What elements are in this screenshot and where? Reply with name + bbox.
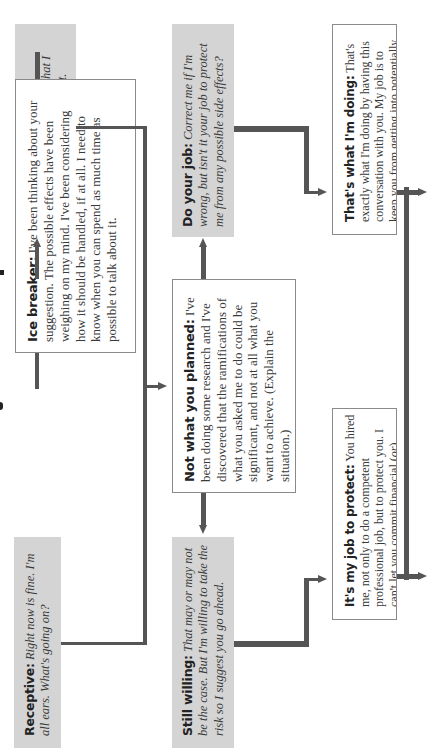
connector-stillwilling-out bbox=[234, 641, 308, 647]
arrow-right-icon bbox=[318, 575, 327, 583]
connector-nwyp-to-stillwilling bbox=[201, 493, 206, 527]
node-text: I've been doing some research and I've d… bbox=[182, 297, 292, 482]
arrow-right-icon bbox=[158, 382, 167, 390]
node-label: That's what I'm doing: bbox=[343, 76, 357, 223]
node-thats-what-im-doing: That's what I'm doing: That's exactly wh… bbox=[332, 24, 397, 235]
node-not-what-you-planned: Not what you planned: I've been doing so… bbox=[172, 279, 296, 493]
connector-right-top bbox=[397, 190, 419, 195]
connector-stillwilling-vertical bbox=[304, 578, 309, 647]
node-label: It's my job to protect: bbox=[343, 464, 357, 607]
node-do-your-job: Do your job: Correct me if I'm wrong, bu… bbox=[172, 24, 234, 237]
title-fragment-mark bbox=[0, 270, 4, 275]
connector-right-vertical bbox=[404, 187, 409, 580]
node-label: Not what you planned: bbox=[182, 319, 197, 482]
node-label: Receptive: bbox=[22, 663, 37, 736]
connector-nwyp-to-doyourjob bbox=[201, 245, 206, 279]
arrow-right-icon bbox=[418, 572, 427, 580]
node-ice-breaker: Ice breaker: I've been thinking about yo… bbox=[15, 79, 136, 353]
node-label: Still willing: bbox=[180, 655, 195, 736]
arrow-up-icon bbox=[33, 238, 41, 247]
node-receptive: Receptive: Right now is fine. I'm all ea… bbox=[14, 537, 61, 748]
connector-ice-to-receptive bbox=[35, 353, 39, 389]
node-text-or: or bbox=[387, 447, 397, 458]
connector-doyourjob-out bbox=[234, 126, 308, 132]
connector bbox=[35, 52, 40, 79]
connector-doyourjob-vertical bbox=[304, 126, 309, 194]
arrow-right-icon bbox=[318, 188, 327, 196]
connector-unreceptive-out bbox=[76, 126, 147, 129]
node-label: Do your job: bbox=[180, 143, 195, 227]
arrow-up-icon bbox=[199, 238, 207, 247]
node-its-my-job-to-protect: It's my job to protect: You hired me, no… bbox=[332, 408, 397, 620]
title-fragment-mark bbox=[0, 402, 3, 410]
arrow-right-icon bbox=[418, 188, 427, 196]
arrow-down-icon bbox=[199, 525, 207, 534]
node-still-willing: Still willing: That may or may not be th… bbox=[172, 537, 234, 748]
connector-right-bottom bbox=[397, 574, 419, 579]
connector-ice-to-unreceptive bbox=[35, 245, 39, 279]
connector-receptive-out bbox=[61, 642, 147, 645]
